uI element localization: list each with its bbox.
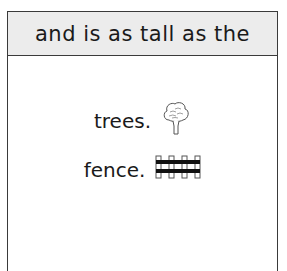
- option-fence[interactable]: fence.: [8, 155, 277, 184]
- option-label: fence.: [84, 158, 146, 182]
- tree-icon: [161, 100, 191, 141]
- question-card: and is as tall as the trees. fence.: [7, 11, 278, 271]
- fence-icon: [155, 155, 201, 184]
- sentence-header: and is as tall as the: [8, 12, 277, 56]
- option-label: trees.: [94, 109, 151, 133]
- option-trees[interactable]: trees.: [8, 100, 277, 141]
